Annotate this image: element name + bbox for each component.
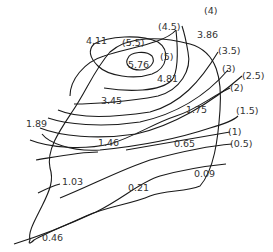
- label-value-0.46: 0.46: [42, 232, 63, 243]
- label-contour-1.5: (1.5): [236, 105, 259, 116]
- label-contour-2.5: (2.5): [242, 70, 265, 81]
- label-contour-4: (4): [204, 5, 217, 16]
- label-contour-3: (3): [222, 63, 235, 74]
- label-value-0.21: 0.21: [128, 182, 149, 193]
- label-value-4.81: 4.81: [157, 73, 178, 84]
- label-contour-5: (5): [160, 51, 173, 62]
- contour-map: (4) (4.5) (5.5) (5) 5.76 4.11 3.86 (3.5)…: [0, 0, 273, 252]
- label-contour-2: (2): [230, 82, 243, 93]
- label-value-4.11: 4.11: [86, 35, 107, 46]
- label-value-5.76: 5.76: [128, 59, 149, 70]
- label-contour-5.5: (5.5): [122, 37, 145, 48]
- label-value-0.65: 0.65: [174, 138, 195, 149]
- label-contour-1: (1): [228, 126, 241, 137]
- label-contour-3.5: (3.5): [218, 45, 241, 56]
- label-value-0.09: 0.09: [194, 168, 215, 179]
- label-value-3.86: 3.86: [197, 29, 218, 40]
- label-value-1.75: 1.75: [186, 104, 207, 115]
- label-value-1.89: 1.89: [26, 118, 47, 129]
- contour-2-line: [30, 88, 230, 147]
- label-value-1.46: 1.46: [98, 137, 119, 148]
- label-contour-0.5: (0.5): [230, 138, 253, 149]
- label-value-1.03: 1.03: [62, 176, 83, 187]
- label-value-3.45: 3.45: [101, 95, 122, 106]
- label-contour-4.5: (4.5): [158, 21, 181, 32]
